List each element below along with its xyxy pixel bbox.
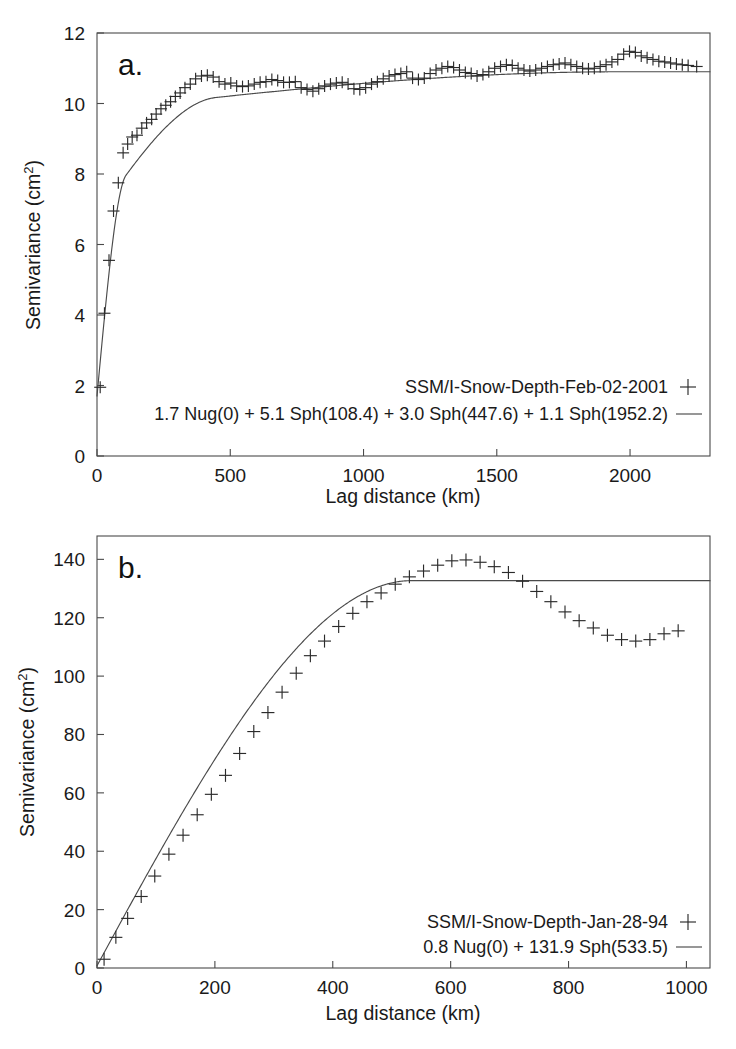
data-point-marker (289, 76, 301, 88)
panel-a-y-axis-title: Semivariance (cm2) (21, 160, 44, 330)
data-point-marker (448, 62, 460, 74)
y-tick-label: 80 (64, 724, 85, 745)
data-point-marker (219, 78, 231, 90)
data-point-marker (573, 614, 586, 627)
data-point-marker (601, 629, 614, 642)
data-point-marker (195, 70, 207, 82)
data-point-marker (366, 78, 378, 90)
panel-a-label: a. (118, 48, 143, 81)
x-tick-label: 600 (435, 977, 467, 998)
x-tick-label: 2000 (609, 465, 651, 486)
data-point-marker (242, 80, 254, 92)
y-tick-label: 2 (74, 376, 85, 397)
y-tick-label: 100 (53, 666, 85, 687)
data-point-marker (360, 595, 373, 608)
x-tick-label: 1000 (342, 465, 384, 486)
data-point-marker (324, 78, 336, 90)
data-point-marker (670, 58, 682, 70)
data-point-marker (641, 52, 653, 64)
data-point-marker (459, 553, 472, 566)
data-point-marker (474, 556, 487, 569)
data-point-marker (247, 725, 260, 738)
panel-a-model-curve (97, 72, 710, 396)
data-point-marker (165, 96, 177, 108)
panel-a-data-points (94, 45, 702, 393)
data-point-marker (471, 70, 483, 82)
data-point-marker (266, 74, 278, 86)
data-point-marker (313, 83, 325, 95)
data-point-marker (174, 87, 186, 99)
y-tick-label: 40 (64, 841, 85, 862)
data-point-marker (283, 76, 295, 88)
data-point-marker (98, 307, 110, 319)
data-point-marker (618, 48, 630, 60)
y-tick-label: 8 (74, 164, 85, 185)
data-point-marker (430, 64, 442, 76)
data-point-marker (330, 77, 342, 89)
data-point-marker (643, 633, 656, 646)
data-point-marker (401, 66, 413, 78)
panel-b-x-ticks: 02004006008001000 (92, 961, 708, 998)
data-point-marker (594, 60, 606, 72)
data-point-marker (94, 381, 106, 393)
panel-a-legend-model-label: 1.7 Nug(0) + 5.1 Sph(108.4) + 3.0 Sph(44… (154, 404, 668, 424)
data-point-marker (295, 82, 307, 94)
panel-b-plot: 02004006008001000 020406080100120140 b. … (0, 520, 736, 1049)
data-point-marker (547, 59, 559, 71)
panel-b-legend-model-label: 0.8 Nug(0) + 131.9 Sph(533.5) (423, 937, 668, 957)
data-point-marker (162, 848, 175, 861)
data-point-marker (553, 58, 565, 70)
data-point-marker (659, 56, 671, 68)
panel-a-legend-plus-icon (680, 379, 696, 395)
data-point-marker (676, 59, 688, 71)
data-point-marker (371, 76, 383, 88)
data-point-marker (407, 72, 419, 84)
data-point-marker (141, 117, 153, 129)
data-point-marker (254, 76, 266, 88)
data-point-marker (445, 554, 458, 567)
data-point-marker (389, 578, 402, 591)
data-point-marker (658, 627, 671, 640)
panel-b-legend-plus-icon (680, 914, 696, 930)
data-point-marker (219, 769, 232, 782)
data-point-marker (332, 620, 345, 633)
data-point-marker (225, 77, 237, 89)
data-point-marker (412, 74, 424, 86)
data-point-marker (354, 83, 366, 95)
data-point-marker (248, 78, 260, 90)
x-tick-label: 1500 (476, 465, 518, 486)
y-tick-label: 0 (74, 446, 85, 467)
data-point-marker (190, 73, 202, 85)
panel-b-x-axis-title: Lag distance (km) (326, 1002, 481, 1024)
panel-b-legend-series-label: SSM/I-Snow-Depth-Jan-28-94 (427, 912, 668, 932)
x-tick-label: 1000 (665, 977, 707, 998)
data-point-marker (453, 64, 465, 76)
data-point-marker (624, 45, 636, 57)
data-point-marker (201, 69, 213, 81)
data-point-marker (191, 808, 204, 821)
data-point-marker (121, 912, 134, 925)
data-point-marker (272, 75, 284, 87)
data-point-marker (389, 69, 401, 81)
data-point-marker (383, 70, 395, 82)
panel-b-label: b. (118, 551, 143, 584)
y-tick-label: 0 (74, 958, 85, 979)
data-point-marker (98, 953, 111, 966)
data-point-marker (109, 931, 122, 944)
data-point-marker (131, 129, 143, 141)
data-point-marker (112, 177, 124, 189)
data-point-marker (465, 68, 477, 80)
data-point-marker (237, 81, 249, 93)
data-point-marker (565, 59, 577, 71)
data-point-marker (155, 103, 167, 115)
data-point-marker (502, 566, 515, 579)
data-point-marker (318, 635, 331, 648)
x-tick-label: 500 (214, 465, 246, 486)
data-point-marker (483, 66, 495, 78)
data-point-marker (346, 607, 359, 620)
panel-a-y-ticks: 024681012 (64, 23, 104, 467)
variogram-panel-a: 0500100015002000 024681012 a. Lag distan… (0, 0, 736, 520)
panel-b-y-axis-title: Semivariance (cm2) (15, 667, 38, 837)
panel-b-data-points (98, 553, 685, 965)
data-point-marker (261, 706, 274, 719)
